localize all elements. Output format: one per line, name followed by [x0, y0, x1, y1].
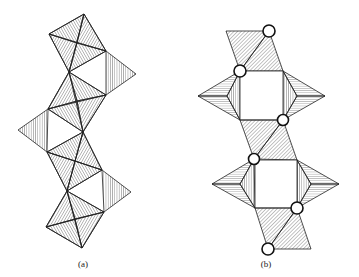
diagram: (a) [0, 0, 359, 277]
panel-b: (b) [198, 25, 339, 269]
atom-circle [278, 115, 289, 126]
atom-circle [262, 243, 274, 255]
tetrahedron [102, 170, 131, 212]
tetrahedron [106, 51, 136, 95]
atom-circle [234, 65, 246, 77]
side-pyramid-right [283, 71, 325, 120]
side-pyramid-left [198, 71, 240, 120]
panel-a: (a) [18, 14, 136, 269]
panel-label-a: (a) [78, 259, 88, 269]
octahedron [48, 72, 106, 132]
octahedron [46, 191, 104, 248]
octahedron [49, 14, 106, 72]
square-opening [240, 71, 283, 120]
atom-circle [291, 202, 303, 214]
octahedron [47, 132, 102, 191]
atom-circle [263, 25, 275, 37]
atom-circle [249, 154, 260, 165]
square-opening [255, 160, 297, 208]
tetrahedron [18, 109, 48, 152]
panel-label-b: (b) [261, 259, 272, 269]
side-pyramid-left [212, 159, 255, 208]
side-pyramid-right [297, 160, 339, 208]
